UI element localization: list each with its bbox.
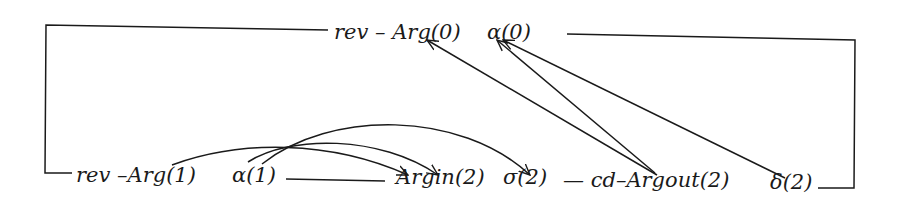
left-frame-line bbox=[45, 25, 328, 173]
node-delta2: δ(2) bbox=[770, 172, 812, 193]
right-frame-line bbox=[567, 34, 855, 188]
arc-arg1-to-argin2 bbox=[172, 147, 408, 175]
node-rev-arg0: rev – Arg(0) bbox=[334, 22, 461, 43]
edge-argout2-to-arg0 bbox=[427, 40, 657, 175]
node-alpha0: α(0) bbox=[487, 22, 531, 43]
node-argin2: Argin(2) bbox=[396, 167, 485, 188]
node-rev-arg1: rev –Arg(1) bbox=[76, 165, 196, 186]
node-cd-argout2: — cd–Argout(2) bbox=[563, 170, 729, 191]
edge-argout2-to-alpha0 bbox=[497, 40, 655, 173]
node-sigma2: σ(2) bbox=[503, 167, 547, 188]
diagram-canvas: rev – Arg(0) α(0) rev –Arg(1) α(1) Argin… bbox=[0, 0, 898, 206]
node-alpha1: α(1) bbox=[232, 165, 276, 186]
alpha1-to-argin2-line bbox=[286, 179, 385, 181]
